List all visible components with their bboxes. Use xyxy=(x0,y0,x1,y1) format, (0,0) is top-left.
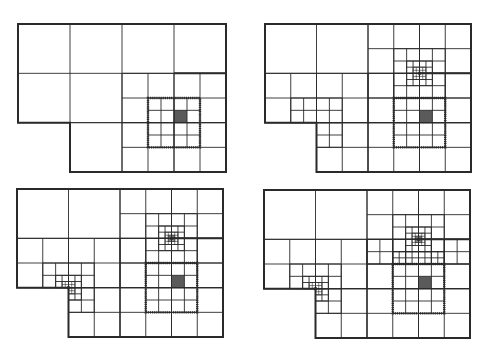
mesh-grid xyxy=(265,24,471,172)
panel-stage-1 xyxy=(18,24,226,172)
mesh-grid xyxy=(18,24,226,172)
mesh-grid xyxy=(17,189,223,337)
panel-stage-4 xyxy=(264,190,470,338)
shaded-cell xyxy=(419,276,432,288)
shaded-cell xyxy=(174,110,187,122)
panel-stage-3 xyxy=(17,189,223,337)
mesh-grid xyxy=(264,190,470,338)
panel-stage-2 xyxy=(265,24,471,172)
shaded-cell xyxy=(420,110,433,122)
shaded-cell xyxy=(172,275,185,287)
